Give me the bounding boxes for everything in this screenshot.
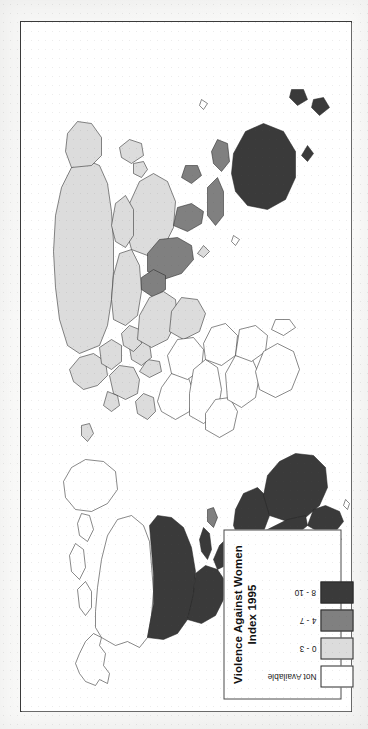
legend-label: Not Available (267, 672, 316, 681)
legend-swatch (320, 581, 353, 603)
legend-item-not-available: Not Available (267, 665, 353, 687)
scanned-page-background: .c{stroke:#262626;stroke-width:.55;strok… (0, 0, 368, 729)
legend-title-line1: Violence Against Women (231, 539, 245, 689)
legend-label: 0 - 3 (299, 644, 316, 653)
legend-item-8-10: 8 - 10 (294, 581, 353, 603)
rotated-map-container: .c{stroke:#262626;stroke-width:.55;strok… (21, 22, 351, 711)
legend-label: 8 - 10 (294, 588, 316, 597)
legend-label: 4 - 7 (299, 616, 316, 625)
legend-item-4-7: 4 - 7 (299, 609, 353, 631)
map-legend: Violence Against Women Index 1995 Not Av… (223, 529, 341, 699)
legend-items: Not Available 0 - 3 4 - 7 8 - 10 (267, 539, 353, 689)
figure-frame: .c{stroke:#262626;stroke-width:.55;strok… (20, 21, 352, 712)
legend-item-0-3: 0 - 3 (299, 637, 353, 659)
legend-title-line2: Index 1995 (245, 539, 259, 689)
legend-swatch (320, 637, 353, 659)
region-russia (53, 159, 113, 353)
legend-title: Violence Against Women Index 1995 (231, 539, 258, 689)
legend-swatch (320, 609, 353, 631)
legend-swatch (320, 665, 353, 687)
